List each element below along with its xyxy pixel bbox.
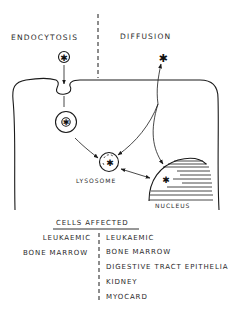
lysosome: ✱ — [100, 153, 119, 172]
diffusion-cell-0: LEUKAEMIC — [106, 234, 154, 242]
diffusion-cell-3: KIDNEY — [106, 278, 137, 286]
endocytosis-cell-1: BONE MARROW — [23, 249, 88, 257]
diffusion-to-nucleus-arrow — [153, 104, 163, 164]
diffusion-drug-symbol: ✱ — [158, 52, 167, 65]
svg-text:✱: ✱ — [162, 175, 170, 185]
diffusion-cell-4: MYOCARD — [106, 293, 148, 301]
cell-membrane — [13, 79, 219, 211]
diffusion-entry-path — [157, 64, 161, 104]
endocytosis-cell-0: LEUKAEMIC — [43, 234, 91, 242]
svg-text:✱: ✱ — [60, 53, 68, 63]
endocytosis-particle: ✱ — [59, 52, 70, 63]
header-endocytosis: ENDOCYTOSIS — [11, 33, 78, 42]
lysosome-label: LYSOSOME — [76, 177, 116, 184]
lysosome-nucleus-arrow — [121, 169, 150, 178]
nucleus: ✱ — [149, 158, 213, 201]
header-diffusion: DIFFUSION — [120, 32, 171, 41]
diffusion-cell-2: DIGESTIVE TRACT EPITHELIA — [106, 263, 228, 271]
nucleus-label: NUCLEUS — [155, 202, 190, 209]
diffusion-to-lysosome-arrow — [118, 104, 158, 155]
cells-affected-title: CELLS AFFECTED — [56, 219, 129, 227]
vesicle-to-lysosome-arrow — [75, 138, 98, 158]
endocytic-vesicle: ✱ — [56, 112, 77, 133]
svg-text:✱: ✱ — [106, 158, 114, 168]
diffusion-cell-1: BONE MARROW — [106, 248, 171, 256]
svg-text:✱: ✱ — [63, 118, 70, 127]
